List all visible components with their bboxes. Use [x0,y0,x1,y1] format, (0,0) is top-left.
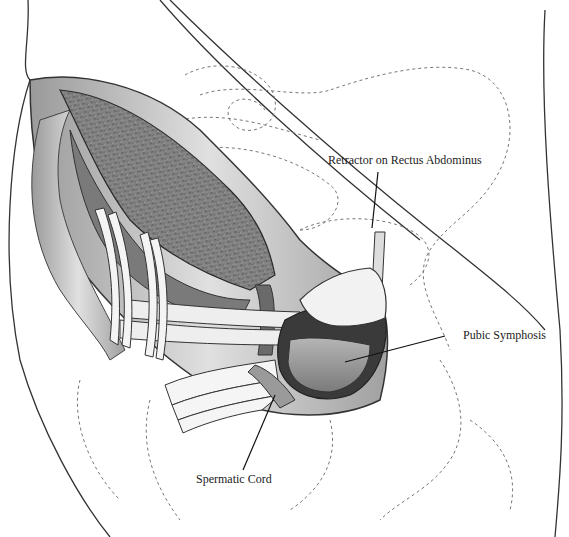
label-pubic-symphysis: Pubic Symphosis [463,328,546,343]
illustration: Retractor on Rectus Abdominus Pubic Symp… [0,0,569,537]
label-retractor-on-rectus: Retractor on Rectus Abdominus [328,153,482,168]
label-spermatic-cord: Spermatic Cord [196,472,272,487]
anatomy-drawing [0,0,569,537]
